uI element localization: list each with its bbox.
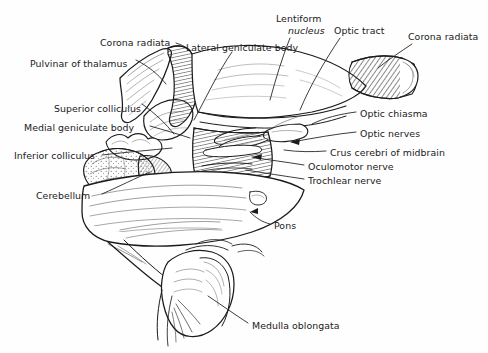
label-corona-radiata-right: Corona radiata bbox=[408, 31, 478, 42]
label-superior-colliculus: Superior colliculus bbox=[54, 103, 141, 114]
lentiform-nucleus-structure bbox=[192, 45, 366, 118]
label-cerebellum: Cerebellum bbox=[36, 190, 90, 201]
pons-structure bbox=[82, 172, 304, 246]
corona-radiata-right-structure bbox=[349, 56, 418, 99]
label-pons: Pons bbox=[274, 220, 296, 231]
medulla-structure bbox=[157, 250, 234, 346]
label-medial-geniculate-body: Medial geniculate body bbox=[24, 122, 134, 133]
label-oculomotor-nerve: Oculomotor nerve bbox=[308, 161, 394, 172]
label-optic-chiasma: Optic chiasma bbox=[360, 108, 428, 119]
label-nucleus: nucleus bbox=[288, 25, 325, 36]
label-optic-nerves: Optic nerves bbox=[360, 128, 420, 139]
label-inferior-colliculus: Inferior colliculus bbox=[14, 150, 95, 161]
label-crus-cerebri-of-midbrain: Crus cerebri of midbrain bbox=[330, 147, 445, 158]
label-corona-radiata-left: Corona radiata bbox=[100, 37, 170, 48]
label-optic-tract: Optic tract bbox=[334, 25, 384, 36]
label-lentiform: Lentiform bbox=[276, 13, 321, 24]
label-trochlear-nerve: Trochlear nerve bbox=[308, 175, 381, 186]
label-medulla-oblongata: Medulla oblongata bbox=[252, 320, 340, 331]
label-lateral-geniculate-body: Lateral geniculate body bbox=[186, 42, 298, 53]
anatomical-figure: Corona radiata Pulvinar of thalamus Late… bbox=[0, 0, 488, 353]
label-pulvinar-of-thalamus: Pulvinar of thalamus bbox=[30, 58, 127, 69]
